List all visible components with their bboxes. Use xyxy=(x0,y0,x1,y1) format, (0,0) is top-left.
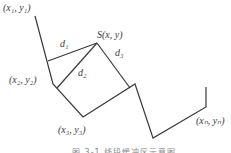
label-p3: (x₃, y₃) xyxy=(58,125,86,135)
label-p2: (x₂, y₂) xyxy=(9,75,37,85)
label-d1: d₁ xyxy=(60,39,68,49)
label-s: S(x, y) xyxy=(97,30,123,40)
label-p1: (x₁, y₁) xyxy=(3,3,31,13)
label-pn: (xₙ, yₙ) xyxy=(196,116,225,126)
distance-d3 xyxy=(97,43,130,88)
figure-caption: 图 3-1 线段缓冲区示意图 xyxy=(72,146,176,153)
label-d2: d₂ xyxy=(78,68,86,78)
label-d3: d₃ xyxy=(115,48,123,58)
